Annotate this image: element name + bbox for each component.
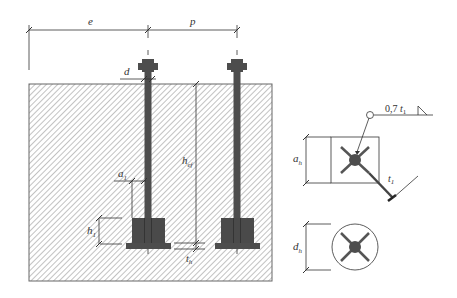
weld-annotation: 0,7 t1: [355, 103, 433, 155]
square-anchor-plate-detail: ah t1: [293, 134, 418, 201]
dimension-e-p: e p: [26, 15, 240, 70]
label-ah: ah: [293, 152, 303, 167]
weld-size-text: 0,7 t1: [385, 103, 407, 116]
fillet-weld-icon: [418, 106, 427, 115]
anchor-bolt-diagram: e p d hef: [0, 0, 457, 298]
label-e: e: [88, 15, 93, 27]
label-dh: dh: [293, 240, 303, 255]
circular-anchor-plate-detail: dh: [293, 221, 378, 273]
label-p: p: [189, 15, 196, 27]
label-d: d: [124, 65, 130, 77]
label-t1: t1: [388, 173, 394, 186]
